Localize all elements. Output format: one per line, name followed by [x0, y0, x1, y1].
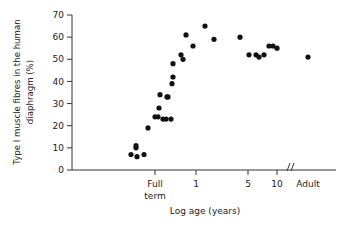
x-axis-ticks: [155, 170, 277, 175]
x-tick-label-adult: Adult: [296, 179, 320, 189]
data-point: [145, 125, 150, 130]
data-point: [155, 114, 160, 119]
data-point: [169, 81, 174, 86]
x-tick-label-full: Full: [147, 179, 162, 189]
y-tick-label-50: 50: [53, 54, 65, 64]
x-tick-label-10: 10: [271, 179, 283, 189]
data-point: [168, 116, 173, 121]
x-tick-label-term: term: [144, 191, 165, 201]
x-axis-title: Log age (years): [170, 206, 240, 216]
data-point: [256, 54, 261, 59]
data-point: [165, 94, 170, 99]
y-axis-title-line1: Type I muscle fibres in the human: [12, 19, 22, 165]
y-tick-label-60: 60: [53, 32, 65, 42]
data-point: [237, 35, 242, 40]
x-tick-label-1: 1: [193, 179, 199, 189]
scatter-plot-figure: 010203040506070 Fullterm1510Adult Type I…: [0, 0, 343, 225]
data-point: [211, 37, 216, 42]
y-tick-label-70: 70: [53, 10, 65, 20]
data-point: [178, 52, 183, 57]
data-point: [170, 74, 175, 79]
data-point: [134, 154, 139, 159]
data-point: [170, 61, 175, 66]
data-point: [183, 32, 188, 37]
x-tick-label-5: 5: [245, 179, 251, 189]
data-point: [202, 23, 207, 28]
data-point-series: [128, 23, 310, 159]
data-point: [133, 145, 138, 150]
data-point: [180, 57, 185, 62]
data-point: [163, 116, 168, 121]
data-point: [261, 52, 266, 57]
data-point: [305, 54, 310, 59]
y-axis-tick-labels: 010203040506070: [53, 10, 65, 175]
data-point: [141, 152, 146, 157]
data-point: [156, 105, 161, 110]
y-tick-label-0: 0: [58, 165, 64, 175]
y-tick-label-10: 10: [53, 143, 65, 153]
chart-canvas: 010203040506070 Fullterm1510Adult Type I…: [0, 0, 343, 225]
data-point: [157, 92, 162, 97]
x-axis-group: Fullterm1510Adult: [72, 163, 336, 201]
data-point: [274, 46, 279, 51]
y-axis-ticks: [67, 15, 72, 170]
y-tick-label-20: 20: [53, 121, 65, 131]
y-axis-title: Type I muscle fibres in the human diaphr…: [12, 19, 35, 165]
y-axis-group: 010203040506070: [53, 10, 72, 175]
data-point: [246, 52, 251, 57]
data-point: [190, 43, 195, 48]
y-tick-label-40: 40: [53, 77, 65, 87]
x-axis-tick-labels: Fullterm1510Adult: [144, 179, 320, 201]
y-tick-label-30: 30: [53, 99, 65, 109]
y-axis-title-line2: diaphragm (%): [25, 60, 35, 124]
data-point: [128, 152, 133, 157]
